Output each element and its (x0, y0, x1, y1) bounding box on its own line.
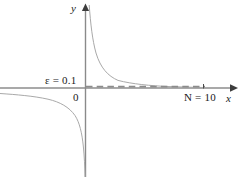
origin-label: 0 (73, 92, 79, 103)
x-axis-arrowhead-icon (230, 84, 238, 92)
y-axis-arrowhead-icon (82, 4, 89, 12)
y-axis (82, 4, 89, 178)
figure-canvas (0, 0, 244, 177)
epsilon-value-label: ε = 0.1 (45, 75, 76, 86)
n-threshold-label: N = 10 (184, 92, 216, 103)
x-axis-label: x (226, 93, 231, 104)
y-axis-label: y (71, 3, 76, 14)
curve-left-branch (0, 94, 85, 178)
hyperbola-epsilon-figure: y x 0 ε = 0.1 N = 10 (0, 0, 244, 177)
curve-right-branch (89, 5, 212, 88)
